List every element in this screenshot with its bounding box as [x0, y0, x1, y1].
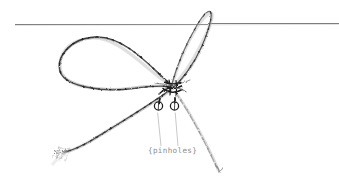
pinholes-label: {pinholes}: [148, 146, 197, 155]
figure-canvas: {pinholes}: [0, 0, 339, 185]
diagram-svg: {pinholes}: [0, 0, 339, 185]
